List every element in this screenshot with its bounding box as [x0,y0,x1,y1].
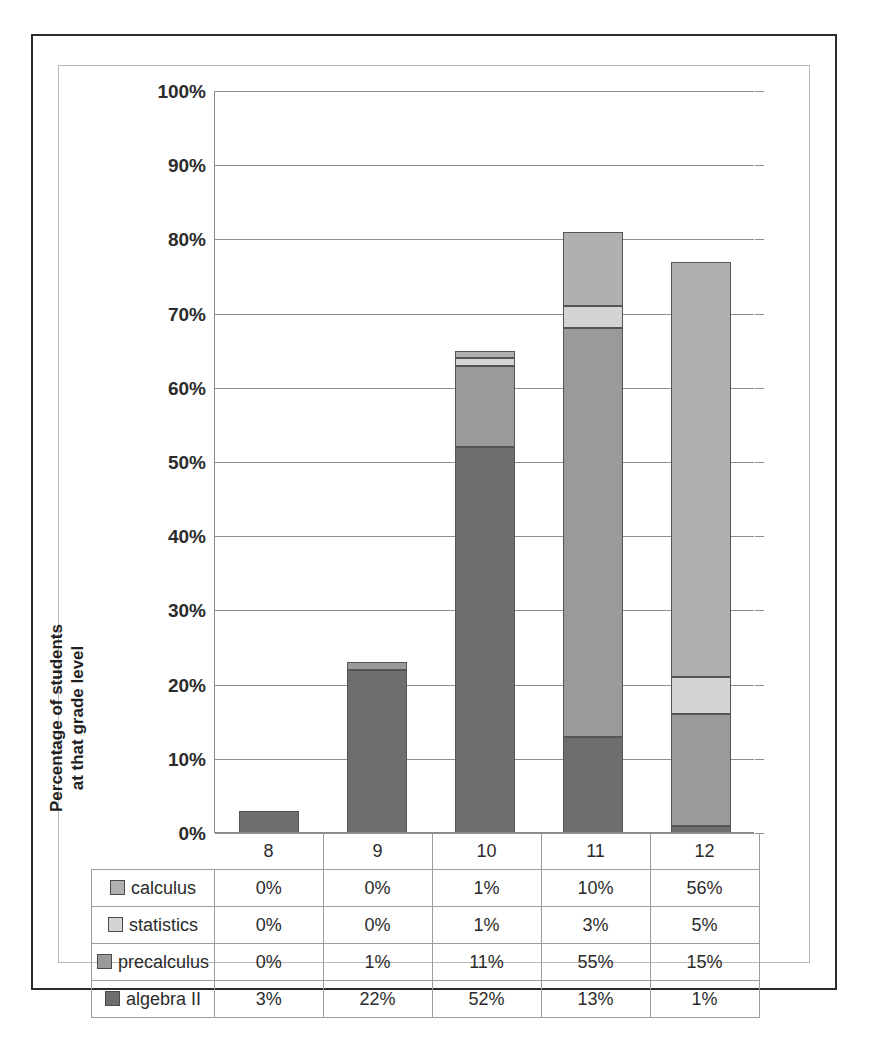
bar-segment-algebra-II-grade-8 [239,811,299,833]
bar-column-grade-9 [347,91,407,833]
table-cell-algebra-II-grade-8: 3% [215,981,324,1018]
y-tick-mark [755,462,764,463]
y-tick-mark [755,610,764,611]
legend-swatch-icon [97,954,112,969]
y-tick-label: 100% [128,82,206,101]
bar-segment-precalculus-grade-10 [455,366,515,448]
legend-label: algebra II [126,989,201,1009]
table-cell-calculus-grade-10: 1% [432,870,541,907]
table-cell-statistics-grade-8: 0% [215,907,324,944]
bar-segment-statistics-grade-12 [671,677,731,714]
bar-column-grade-8 [239,91,299,833]
plot-area [214,91,754,833]
table-cell-algebra-II-grade-12: 1% [650,981,759,1018]
y-tick-label: 50% [128,453,206,472]
chart-data-table: 89101112calculus0%0%1%10%56%statistics0%… [91,833,760,1018]
legend-label: precalculus [118,952,209,972]
bar-column-grade-12 [671,91,731,833]
bar-segment-precalculus-grade-12 [671,714,731,825]
bar-segment-algebra-II-grade-11 [563,737,623,833]
legend-item-statistics[interactable]: statistics [92,907,215,944]
table-cell-statistics-grade-12: 5% [650,907,759,944]
legend-swatch-icon [105,991,120,1006]
bar-segment-calculus-grade-10 [455,351,515,358]
bar-segment-algebra-II-grade-9 [347,670,407,833]
table-corner-cell [92,833,215,870]
y-tick-mark [755,759,764,760]
legend-label: calculus [131,878,196,898]
table-cell-algebra-II-grade-10: 52% [432,981,541,1018]
legend-item-precalculus[interactable]: precalculus [92,944,215,981]
y-tick-mark [755,685,764,686]
table-header-row: 89101112 [92,833,760,870]
table-cell-statistics-grade-9: 0% [323,907,432,944]
table-column-header-grade-12: 12 [650,833,759,870]
bar-segment-precalculus-grade-11 [563,328,623,736]
bar-segment-algebra-II-grade-10 [455,447,515,833]
legend-swatch-icon [108,917,123,932]
bar-segment-calculus-grade-11 [563,232,623,306]
y-tick-label: 60% [128,378,206,397]
bar-segment-calculus-grade-12 [671,262,731,678]
legend-item-algebra-II[interactable]: algebra II [92,981,215,1018]
table-cell-precalculus-grade-11: 55% [541,944,650,981]
table-column-header-grade-9: 9 [323,833,432,870]
y-tick-label: 20% [128,675,206,694]
y-tick-mark [755,165,764,166]
y-tick-label: 10% [128,749,206,768]
table-column-header-grade-10: 10 [432,833,541,870]
y-tick-label: 40% [128,527,206,546]
table-cell-statistics-grade-10: 1% [432,907,541,944]
legend-swatch-icon [110,880,125,895]
table-row: statistics0%0%1%3%5% [92,907,760,944]
y-tick-mark [755,314,764,315]
y-tick-label: 80% [128,230,206,249]
table-cell-precalculus-grade-10: 11% [432,944,541,981]
table-column-header-grade-8: 8 [215,833,324,870]
table-row: algebra II3%22%52%13%1% [92,981,760,1018]
bar-segment-precalculus-grade-9 [347,662,407,669]
y-tick-mark [755,388,764,389]
y-tick-label: 30% [128,601,206,620]
table-row: calculus0%0%1%10%56% [92,870,760,907]
table-cell-statistics-grade-11: 3% [541,907,650,944]
data-table-body: 89101112calculus0%0%1%10%56%statistics0%… [92,833,760,1018]
table-cell-algebra-II-grade-9: 22% [323,981,432,1018]
table-cell-precalculus-grade-9: 1% [323,944,432,981]
table-row: precalculus0%1%11%55%15% [92,944,760,981]
table-cell-calculus-grade-8: 0% [215,870,324,907]
y-axis-ticks: 0%10%20%30%40%50%60%70%80%90%100% [122,91,206,833]
bar-column-grade-10 [455,91,515,833]
y-tick-mark [755,239,764,240]
y-tick-mark [755,91,764,92]
table-cell-calculus-grade-11: 10% [541,870,650,907]
y-tick-mark [755,536,764,537]
y-axis-title: Percentage of students at that grade lev… [46,568,89,868]
table-cell-algebra-II-grade-11: 13% [541,981,650,1018]
legend-item-calculus[interactable]: calculus [92,870,215,907]
legend-label: statistics [129,915,198,935]
table-column-header-grade-11: 11 [541,833,650,870]
y-tick-label: 90% [128,156,206,175]
bar-segment-statistics-grade-11 [563,306,623,328]
table-cell-calculus-grade-9: 0% [323,870,432,907]
table-cell-calculus-grade-12: 56% [650,870,759,907]
table-cell-precalculus-grade-12: 15% [650,944,759,981]
bar-segment-statistics-grade-10 [455,358,515,365]
y-tick-label: 70% [128,304,206,323]
table-cell-precalculus-grade-8: 0% [215,944,324,981]
bar-column-grade-11 [563,91,623,833]
